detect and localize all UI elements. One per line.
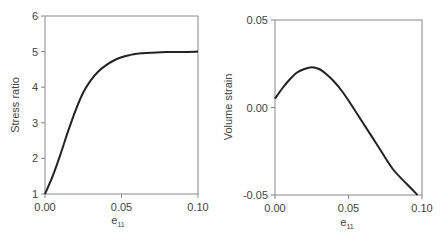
x-tick-label: 0.10 xyxy=(411,202,432,214)
volume-strain-curve xyxy=(275,67,418,195)
x-tick-label: 0.00 xyxy=(264,202,285,214)
left-y-axis-label: Stress ratio xyxy=(9,77,21,133)
left-x-axis-ticks: 0.000.050.10 xyxy=(34,194,208,213)
y-tick-label: 2 xyxy=(32,152,38,164)
x-tick-label: 0.05 xyxy=(111,201,132,213)
y-tick-label: 3 xyxy=(32,117,38,129)
y-tick-label: 1 xyxy=(32,188,38,200)
y-tick-label: 5 xyxy=(32,46,38,58)
right-x-axis-ticks: 0.000.050.10 xyxy=(264,195,432,214)
right-x-axis-label: e11 xyxy=(340,216,353,230)
right-y-axis-label: Volume strain xyxy=(222,74,234,141)
right-y-axis-ticks: -0.050.000.05 xyxy=(243,14,275,201)
left-plot-frame xyxy=(45,16,198,194)
left-x-axis-label: e11 xyxy=(111,214,124,228)
stress-ratio-chart: 123456 0.000.050.10 Stress ratio e11 -0.… xyxy=(0,0,441,245)
y-tick-label: 6 xyxy=(32,10,38,22)
y-tick-label: 0.00 xyxy=(247,102,268,114)
x-tick-label: 0.00 xyxy=(34,201,55,213)
right-plot-frame xyxy=(275,20,422,195)
left-y-axis-ticks: 123456 xyxy=(32,10,45,200)
x-tick-label: 0.05 xyxy=(338,202,359,214)
x-tick-label: 0.10 xyxy=(187,201,208,213)
stress-ratio-curve xyxy=(45,52,198,194)
y-tick-label: 4 xyxy=(32,81,38,93)
y-tick-label: -0.05 xyxy=(243,189,268,201)
y-tick-label: 0.05 xyxy=(247,14,268,26)
